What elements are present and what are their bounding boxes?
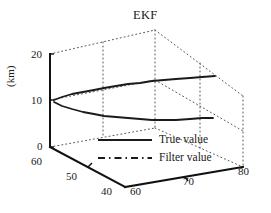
- x-axis-tick-label-50: 50: [66, 171, 77, 182]
- y-axis-tick-label-70: 70: [183, 176, 194, 187]
- x-tick-50: [88, 163, 92, 167]
- axis-lines: [50, 54, 243, 187]
- legend-label-true-value: True value: [159, 134, 208, 146]
- x-axis-tick-label-40: 40: [101, 186, 112, 197]
- x-axis-tick-label-60: 60: [31, 156, 42, 167]
- grid-horizontal-right-z10: [155, 80, 243, 131]
- plot-canvas: [0, 0, 271, 213]
- z-axis-tick-label-0: 0: [37, 141, 43, 152]
- z-axis-tick-label-20: 20: [31, 49, 42, 60]
- legend-label-filter-value: Filter value: [159, 152, 212, 164]
- grid-lines: [50, 30, 243, 167]
- curve-true-value: [54, 76, 215, 100]
- ekf-3d-plot-figure: EKF 20 10 0 (km) 60 50 40 60 70 80 True …: [0, 0, 271, 213]
- z-axis-tick-label-10: 10: [31, 95, 42, 106]
- chart-title: EKF: [133, 9, 158, 22]
- grid-top-right-edge: [155, 30, 243, 96]
- z-axis-title: (km): [5, 66, 16, 87]
- y-axis-tick-label-60: 60: [130, 186, 141, 197]
- y-axis-tick-label-80: 80: [238, 166, 249, 177]
- x-axis-line: [50, 147, 125, 187]
- curve-filter-value: [54, 102, 213, 120]
